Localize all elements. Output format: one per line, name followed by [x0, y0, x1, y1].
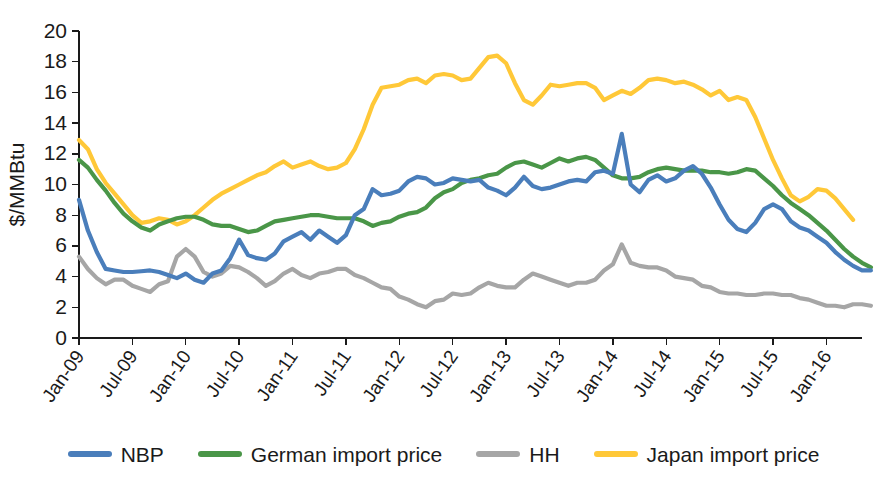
legend-item-label: NBP [121, 444, 164, 465]
x-axis: Jan-09Jul-09Jan-10Jul-10Jan-11Jul-11Jan-… [38, 338, 862, 406]
legend-item-label: Japan import price [647, 444, 820, 465]
chart-legend: NBPGerman import priceHHJapan import pri… [0, 432, 887, 476]
y-tick-label: 0 [55, 326, 67, 349]
series-line-japan-import-price [79, 56, 853, 225]
legend-item[interactable]: German import price [198, 444, 442, 465]
x-tick-label: Jul-09 [95, 346, 142, 400]
x-tick-label: Jul-15 [735, 346, 782, 400]
x-tick-label: Jan-11 [252, 346, 302, 404]
x-tick-label: Jan-14 [572, 346, 623, 406]
legend-swatch-icon [476, 451, 520, 457]
legend-item[interactable]: HH [476, 444, 559, 465]
legend-item-label: German import price [251, 444, 442, 465]
y-tick-label: 2 [55, 295, 67, 318]
y-tick-label: 8 [55, 203, 67, 226]
x-tick-label: Jul-14 [629, 346, 676, 401]
legend-swatch-icon [594, 451, 638, 457]
y-axis-title: $/MMBtu [5, 142, 28, 226]
legend-item[interactable]: NBP [68, 444, 164, 465]
y-axis-title-text: $/MMBtu [5, 142, 28, 226]
legend-swatch-icon [198, 451, 242, 457]
legend-item[interactable]: Japan import price [594, 444, 820, 465]
line-chart-figure: 02468101214161820 Jan-09Jul-09Jan-10Jul-… [0, 0, 887, 492]
x-tick-label: Jul-13 [522, 346, 569, 400]
y-axis: 02468101214161820 [44, 19, 79, 349]
y-tick-label: 14 [44, 111, 68, 134]
y-tick-label: 10 [44, 172, 67, 195]
y-tick-label: 12 [44, 141, 67, 164]
y-tick-label: 18 [44, 49, 67, 72]
x-tick-label: Jan-15 [678, 346, 729, 406]
y-tick-label: 6 [55, 233, 67, 256]
x-tick-label: Jul-10 [202, 346, 249, 400]
y-tick-label: 4 [55, 264, 67, 287]
x-tick-label: Jan-12 [358, 346, 409, 406]
series-line-hh [79, 244, 871, 307]
x-tick-label: Jan-10 [145, 346, 196, 406]
x-tick-label: Jan-13 [465, 346, 516, 406]
y-tick-label: 16 [44, 80, 67, 103]
data-series-group [79, 56, 871, 308]
x-tick-label: Jan-09 [38, 346, 89, 406]
x-tick-label: Jan-16 [785, 346, 836, 406]
legend-item-label: HH [529, 444, 559, 465]
x-tick-label: Jul-11 [309, 346, 355, 399]
chart-plot-area: 02468101214161820 Jan-09Jul-09Jan-10Jul-… [0, 0, 887, 492]
legend-swatch-icon [68, 451, 112, 457]
y-tick-label: 20 [44, 19, 67, 42]
x-tick-label: Jul-12 [415, 346, 462, 400]
